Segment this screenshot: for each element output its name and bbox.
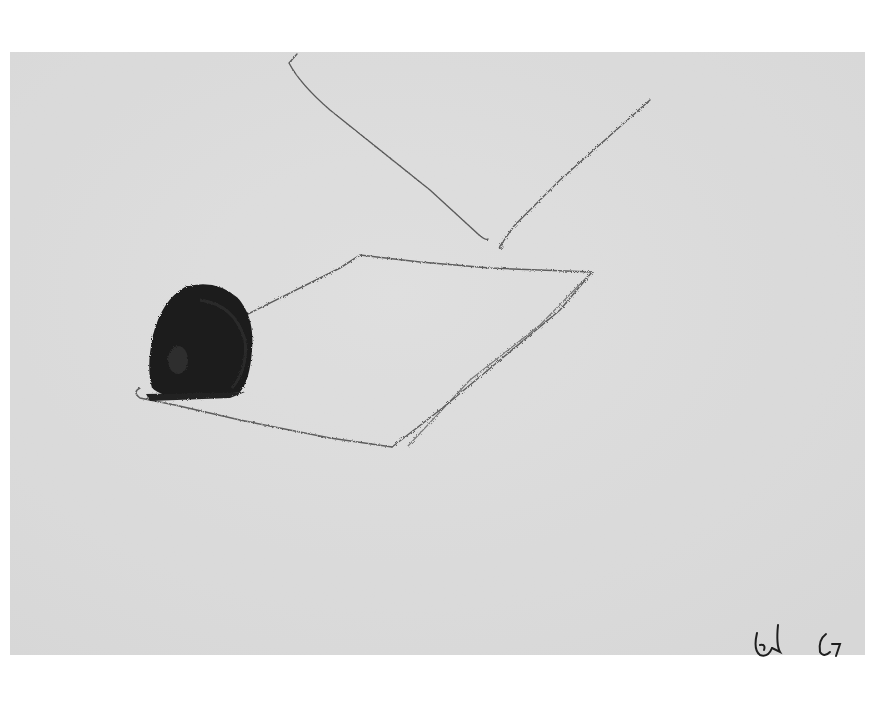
drawing-canvas: [0, 0, 892, 703]
